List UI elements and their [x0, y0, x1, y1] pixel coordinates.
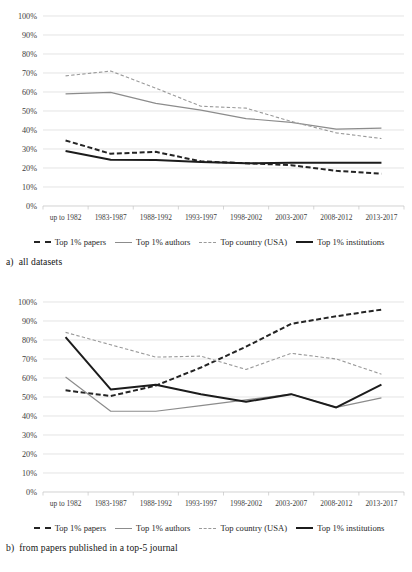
- x-axis-tick-label: 2008-2012: [320, 213, 352, 222]
- legend-item-top-1-percent-institutions: Top 1% institutions: [296, 523, 384, 533]
- panel-b: 0%10%20%30%40%50%60%70%80%90%100%up to 1…: [0, 286, 412, 572]
- series-line: [66, 310, 382, 396]
- legend-label: Top 1% institutions: [317, 237, 384, 247]
- x-axis-tick-label: 2003-2007: [275, 213, 307, 222]
- x-axis-tick-label: 1993-1997: [185, 499, 217, 508]
- legend-swatch-dashed-gray-icon: [199, 242, 216, 243]
- y-axis-tick-label: 80%: [22, 336, 37, 345]
- caption-index: b): [6, 542, 14, 553]
- legend-item-top-country-usa: Top country (USA): [199, 523, 287, 533]
- y-axis-tick-label: 60%: [22, 374, 37, 383]
- y-axis-tick-label: 90%: [22, 31, 37, 40]
- y-axis-tick-label: 60%: [22, 88, 37, 97]
- line-chart-b: 0%10%20%30%40%50%60%70%80%90%100%up to 1…: [0, 286, 412, 518]
- legend-swatch-solid-gray-icon: [115, 242, 132, 243]
- y-axis-tick-label: 70%: [22, 69, 37, 78]
- y-axis-tick-label: 90%: [22, 317, 37, 326]
- line-chart-a: 0%10%20%30%40%50%60%70%80%90%100%up to 1…: [0, 0, 412, 232]
- legend-swatch-dashed-dark-icon: [34, 527, 51, 529]
- y-axis-tick-label: 30%: [22, 145, 37, 154]
- legend-swatch-dashed-dark-icon: [34, 241, 51, 243]
- legend-label: Top country (USA): [220, 523, 287, 533]
- x-axis-tick-label: 1988-1992: [140, 213, 172, 222]
- y-axis-tick-label: 100%: [18, 12, 37, 21]
- y-axis-tick-label: 10%: [22, 469, 37, 478]
- legend-item-top-1-percent-institutions: Top 1% institutions: [296, 237, 384, 247]
- y-axis-tick-label: 70%: [22, 355, 37, 364]
- legend-label: Top country (USA): [220, 237, 287, 247]
- legend-item-top-1-percent-papers: Top 1% papers: [34, 237, 106, 247]
- x-axis-tick-label: 1983-1987: [95, 213, 127, 222]
- y-axis-tick-label: 40%: [22, 126, 37, 135]
- plot-area-b: 0%10%20%30%40%50%60%70%80%90%100%up to 1…: [0, 286, 412, 518]
- legend-swatch-solid-dark-icon: [296, 241, 313, 243]
- series-line: [66, 140, 382, 173]
- caption-b: b)from papers published in a top-5 journ…: [0, 538, 412, 558]
- legend-b: Top 1% papers Top 1% authors Top country…: [0, 518, 412, 538]
- series-line: [66, 332, 382, 374]
- x-axis-tick-label: 1998-2002: [230, 213, 262, 222]
- x-axis-tick-label: 1993-1997: [185, 213, 217, 222]
- legend-swatch-solid-gray-icon: [115, 528, 132, 529]
- caption-a: a)all datasets: [0, 252, 412, 272]
- x-axis-tick-label: 1998-2002: [230, 499, 262, 508]
- y-axis-tick-label: 0%: [26, 202, 37, 211]
- x-axis-tick-label: 2013-2017: [365, 499, 397, 508]
- caption-text: all datasets: [19, 256, 63, 267]
- y-axis-tick-label: 30%: [22, 431, 37, 440]
- x-axis-tick-label: 1983-1987: [95, 499, 127, 508]
- panel-a: 0%10%20%30%40%50%60%70%80%90%100%up to 1…: [0, 0, 412, 286]
- legend-item-top-1-percent-authors: Top 1% authors: [115, 237, 190, 247]
- y-axis-tick-label: 40%: [22, 412, 37, 421]
- y-axis-tick-label: 100%: [18, 298, 37, 307]
- x-axis-tick-label: 1988-1992: [140, 499, 172, 508]
- legend-label: Top 1% authors: [136, 237, 190, 247]
- x-axis-tick-label: 2008-2012: [320, 499, 352, 508]
- caption-index: a): [6, 256, 14, 267]
- plot-area-a: 0%10%20%30%40%50%60%70%80%90%100%up to 1…: [0, 0, 412, 232]
- x-axis-tick-label: 2013-2017: [365, 213, 397, 222]
- y-axis-tick-label: 80%: [22, 50, 37, 59]
- y-axis-tick-label: 0%: [26, 488, 37, 497]
- y-axis-tick-label: 20%: [22, 450, 37, 459]
- legend-item-top-1-percent-papers: Top 1% papers: [34, 523, 106, 533]
- x-axis-tick-label: 2003-2007: [275, 499, 307, 508]
- legend-label: Top 1% institutions: [317, 523, 384, 533]
- x-axis-tick-label: up to 1982: [50, 499, 82, 508]
- legend-a: Top 1% papers Top 1% authors Top country…: [0, 232, 412, 252]
- legend-swatch-dashed-gray-icon: [199, 528, 216, 529]
- caption-text: from papers published in a top-5 journal: [19, 542, 178, 553]
- legend-item-top-1-percent-authors: Top 1% authors: [115, 523, 190, 533]
- legend-label: Top 1% papers: [55, 523, 106, 533]
- legend-label: Top 1% authors: [136, 523, 190, 533]
- y-axis-tick-label: 50%: [22, 107, 37, 116]
- x-axis-tick-label: up to 1982: [50, 213, 82, 222]
- legend-swatch-solid-dark-icon: [296, 527, 313, 529]
- legend-label: Top 1% papers: [55, 237, 106, 247]
- y-axis-tick-label: 20%: [22, 164, 37, 173]
- y-axis-tick-label: 50%: [22, 393, 37, 402]
- y-axis-tick-label: 10%: [22, 183, 37, 192]
- legend-item-top-country-usa: Top country (USA): [199, 237, 287, 247]
- figure-container: 0%10%20%30%40%50%60%70%80%90%100%up to 1…: [0, 0, 412, 572]
